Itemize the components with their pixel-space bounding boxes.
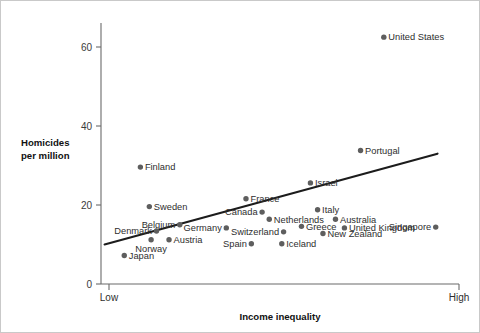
y-tick-label-0: 0 (86, 279, 92, 290)
data-point-dot[interactable] (433, 224, 438, 229)
data-point-dot[interactable] (243, 196, 248, 201)
data-point-label: New Zealand (327, 229, 382, 239)
data-point-label: Switzerland (231, 227, 279, 237)
data-point-dot[interactable] (166, 237, 171, 242)
y-axis-title-line-2: per million (21, 150, 70, 161)
y-tick-label-20: 20 (81, 200, 93, 211)
data-point-dot[interactable] (315, 207, 320, 212)
data-point-label: Portugal (365, 146, 400, 156)
data-point-label: Canada (225, 207, 258, 217)
data-point-dot[interactable] (281, 229, 286, 234)
y-axis-ticks: 0204060 (81, 42, 101, 290)
data-point-dot[interactable] (267, 217, 272, 222)
data-point-dot[interactable] (148, 237, 153, 242)
data-point-dot[interactable] (308, 180, 313, 185)
data-point-dot[interactable] (381, 34, 386, 39)
data-point-label: United States (388, 32, 444, 42)
data-point-label: Austria (174, 235, 204, 245)
data-point-label: Iceland (286, 239, 316, 249)
x-tick-label-low: Low (100, 292, 119, 303)
y-tick-label-40: 40 (81, 121, 93, 132)
scatter-chart: 0204060 LowHigh United StatesPortugalFin… (0, 0, 480, 333)
data-point-dot[interactable] (147, 204, 152, 209)
data-point-dot[interactable] (299, 224, 304, 229)
data-point-label: Denmark (114, 226, 152, 236)
data-point-label: Spain (223, 239, 247, 249)
data-point-label: Italy (322, 205, 339, 215)
y-tick-label-60: 60 (81, 42, 93, 53)
data-point-label: Singapore (389, 222, 431, 232)
x-axis-ticks: LowHigh (100, 284, 469, 303)
data-point-label: Japan (129, 251, 154, 261)
plot-area: 0204060 LowHigh United StatesPortugalFin… (1, 1, 480, 333)
data-point-dot[interactable] (259, 209, 264, 214)
x-tick-label-high: High (449, 292, 470, 303)
x-axis-title: Income inequality (239, 311, 321, 322)
data-point-dot[interactable] (224, 225, 229, 230)
data-point-dot[interactable] (279, 241, 284, 246)
data-point-label: Sweden (154, 202, 188, 212)
data-point-label: Finland (145, 162, 176, 172)
data-point-label: Germany (184, 223, 223, 233)
data-point-dot[interactable] (249, 241, 254, 246)
data-point-dot[interactable] (122, 253, 127, 258)
data-point-dot[interactable] (358, 148, 363, 153)
data-point-dot[interactable] (177, 222, 182, 227)
data-point-dot[interactable] (138, 164, 143, 169)
data-point-label: France (250, 194, 279, 204)
data-points: United StatesPortugalFinlandIsraelFrance… (114, 32, 444, 260)
data-point-dot[interactable] (154, 228, 159, 233)
data-point-dot[interactable] (320, 231, 325, 236)
y-axis-title-line-1: Homicides (21, 137, 70, 148)
data-point-label: Israel (315, 178, 338, 188)
